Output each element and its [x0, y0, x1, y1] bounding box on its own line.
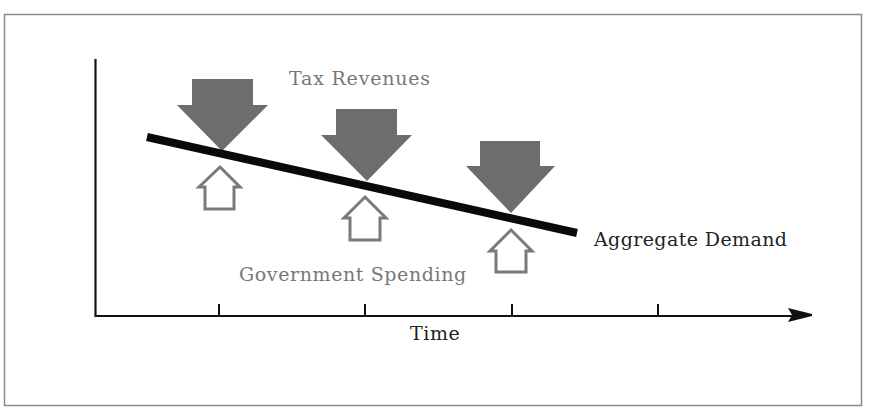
- x-axis-label: Time: [410, 322, 460, 344]
- fiscal-policy-diagram: Tax Revenues Government Spending Aggrega…: [0, 0, 869, 412]
- diagram-frame: [5, 15, 862, 406]
- tax-revenues-label: Tax Revenues: [289, 67, 431, 89]
- government-spending-label: Government Spending: [239, 263, 467, 285]
- aggregate-demand-label: Aggregate Demand: [593, 228, 787, 250]
